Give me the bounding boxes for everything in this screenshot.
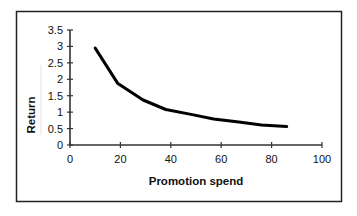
y-tick-label: 3.5 bbox=[48, 24, 63, 36]
y-tick-label: 3 bbox=[57, 40, 63, 52]
y-tick-label: 0.5 bbox=[48, 123, 63, 135]
x-tick-label: 0 bbox=[67, 153, 73, 165]
y-tick-label: 1 bbox=[57, 106, 63, 118]
chart-frame bbox=[17, 12, 342, 202]
chart: 02040608010000.511.522.533.5 Promotion s… bbox=[0, 0, 357, 216]
x-tick-label: 40 bbox=[165, 153, 177, 165]
y-tick-label: 1.5 bbox=[48, 90, 63, 102]
x-tick-label: 100 bbox=[313, 153, 331, 165]
y-tick-label: 0 bbox=[57, 139, 63, 151]
x-axis-title: Promotion spend bbox=[149, 175, 244, 187]
y-tick-label: 2 bbox=[57, 73, 63, 85]
y-axis-title: Return bbox=[25, 96, 37, 133]
x-tick-label: 60 bbox=[215, 153, 227, 165]
x-tick-label: 20 bbox=[114, 153, 126, 165]
y-tick-label: 2.5 bbox=[48, 57, 63, 69]
x-tick-label: 80 bbox=[265, 153, 277, 165]
